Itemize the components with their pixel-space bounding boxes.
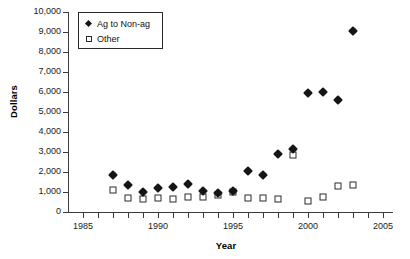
data-point-diamond	[243, 166, 253, 176]
data-point-diamond	[153, 183, 163, 193]
data-point-square	[275, 196, 282, 203]
x-tick-mark	[218, 213, 219, 218]
data-point-diamond	[183, 179, 193, 189]
x-tick-mark	[368, 213, 369, 218]
y-tick-label: 7,000	[7, 67, 61, 76]
y-tick-label: 0	[7, 207, 61, 216]
data-point-diamond	[348, 26, 358, 36]
filled-diamond-icon	[84, 18, 94, 29]
chart-legend: Ag to Non-ag Other	[78, 12, 163, 49]
data-point-diamond	[273, 149, 283, 159]
legend-item-ag-to-non-ag: Ag to Non-ag	[84, 16, 158, 31]
data-point-square	[320, 194, 327, 201]
y-tick-label: 10,000	[7, 7, 61, 16]
y-tick-label: 4,000	[7, 127, 61, 136]
data-point-square	[350, 181, 357, 188]
legend-item-other: Other	[84, 31, 158, 46]
legend-label-1: Other	[97, 34, 120, 44]
x-tick-mark	[188, 213, 189, 218]
x-axis-line	[68, 212, 393, 213]
x-tick-mark	[383, 213, 384, 218]
y-tick-label: 2,000	[7, 167, 61, 176]
x-tick-mark	[248, 213, 249, 218]
x-axis-title: Year	[60, 240, 392, 251]
x-tick-mark	[338, 213, 339, 218]
scatter-chart-figure: Dollars Year 01,0002,0003,0004,0005,0006…	[0, 0, 410, 259]
y-tick-label: 5,000	[7, 107, 61, 116]
data-point-square	[155, 194, 162, 201]
data-point-diamond	[303, 88, 313, 98]
x-tick-mark	[293, 213, 294, 218]
x-tick-mark	[143, 213, 144, 218]
y-tick-label: 1,000	[7, 187, 61, 196]
data-point-square	[170, 196, 177, 203]
x-tick-mark	[173, 213, 174, 218]
data-point-square	[335, 182, 342, 189]
y-tick-label: 9,000	[7, 27, 61, 36]
data-point-square	[125, 194, 132, 201]
y-tick-label: 8,000	[7, 47, 61, 56]
x-tick-label: 2005	[363, 221, 403, 231]
data-point-square	[185, 194, 192, 201]
y-tick-label: 3,000	[7, 147, 61, 156]
data-point-diamond	[168, 182, 178, 192]
x-tick-mark	[158, 213, 159, 218]
x-tick-mark	[83, 213, 84, 218]
x-tick-mark	[98, 213, 99, 218]
data-point-square	[305, 198, 312, 205]
x-tick-mark	[263, 213, 264, 218]
data-point-diamond	[108, 170, 118, 180]
x-tick-mark	[308, 213, 309, 218]
x-tick-mark	[323, 213, 324, 218]
legend-label-0: Ag to Non-ag	[97, 19, 150, 29]
open-square-icon	[84, 33, 94, 44]
x-tick-mark	[203, 213, 204, 218]
x-tick-mark	[278, 213, 279, 218]
x-tick-mark	[353, 213, 354, 218]
x-tick-label: 1985	[63, 221, 103, 231]
x-tick-mark	[113, 213, 114, 218]
data-point-square	[110, 186, 117, 193]
x-tick-label: 2000	[288, 221, 328, 231]
x-tick-label: 1990	[138, 221, 178, 231]
x-tick-mark	[128, 213, 129, 218]
y-tick-mark	[63, 212, 68, 213]
data-point-diamond	[258, 170, 268, 180]
x-tick-mark	[233, 213, 234, 218]
y-axis-tick-labels: 01,0002,0003,0004,0005,0006,0007,0008,00…	[5, 0, 61, 259]
y-tick-label: 6,000	[7, 87, 61, 96]
data-point-diamond	[318, 87, 328, 97]
data-point-diamond	[333, 95, 343, 105]
x-tick-label: 1995	[213, 221, 253, 231]
data-point-square	[245, 195, 252, 202]
data-point-square	[260, 195, 267, 202]
data-point-diamond	[123, 180, 133, 190]
